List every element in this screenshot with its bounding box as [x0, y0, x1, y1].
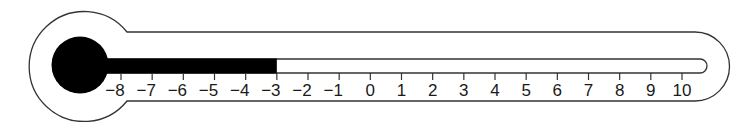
- scale-label: 9: [646, 81, 655, 100]
- scale-label: −3: [261, 81, 280, 100]
- scale-label: 3: [459, 81, 468, 100]
- scale-label: −4: [230, 81, 249, 100]
- mercury-column: [100, 59, 277, 74]
- scale-label: 1: [397, 81, 406, 100]
- scale-label: 0: [366, 81, 375, 100]
- scale-label: 4: [490, 81, 499, 100]
- scale-label: −5: [199, 81, 218, 100]
- scale-label: 5: [521, 81, 530, 100]
- scale-label: −8: [105, 81, 124, 100]
- scale-label: 8: [615, 81, 624, 100]
- scale-label: −2: [292, 81, 311, 100]
- scale-label: 6: [553, 81, 562, 100]
- scale-label: −7: [136, 81, 155, 100]
- thermometer-diagram: −8−7−6−5−4−3−2−1012345678910: [0, 0, 745, 122]
- scale-label: −6: [168, 81, 187, 100]
- scale-label: 10: [673, 81, 692, 100]
- mercury-bulb: [52, 37, 109, 94]
- scale-label: 7: [584, 81, 593, 100]
- scale-label: 2: [428, 81, 437, 100]
- scale-label: −1: [323, 81, 342, 100]
